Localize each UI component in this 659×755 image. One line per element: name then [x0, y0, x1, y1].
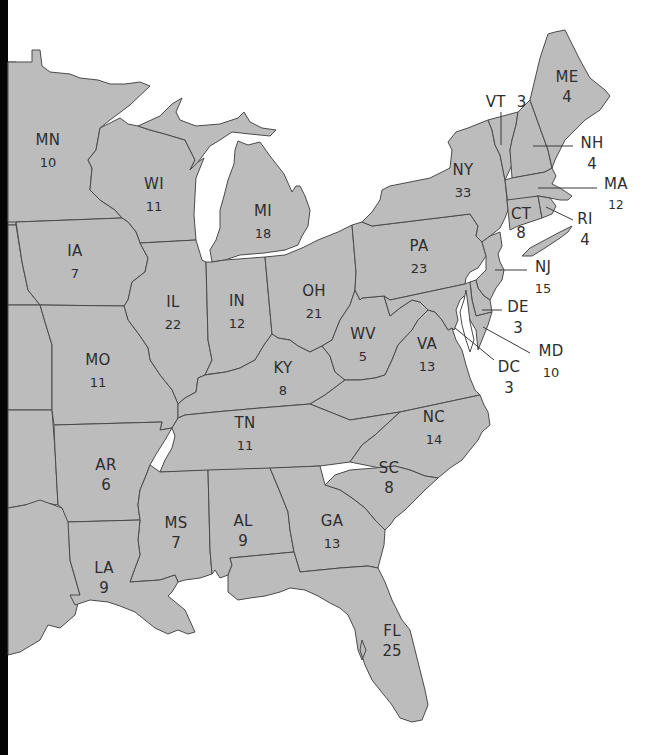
- label-wv: WV 5: [345, 327, 381, 363]
- label-wi: WI 11: [136, 177, 172, 213]
- label-ar: AR 6: [88, 458, 124, 493]
- label-me: ME 4: [549, 70, 585, 105]
- label-nh: NH 4: [574, 136, 610, 172]
- label-ct: CT 8: [505, 207, 537, 241]
- label-ky: KY 8: [265, 361, 301, 397]
- label-ga: GA 13: [314, 514, 350, 550]
- label-nc: NC 14: [416, 410, 452, 446]
- label-de: DE 3: [503, 300, 533, 336]
- label-la: LA 9: [86, 561, 122, 596]
- label-al: AL 9: [225, 514, 261, 549]
- label-sc: SC 8: [371, 461, 407, 496]
- label-dc: DC 3: [494, 360, 524, 396]
- label-ri: RI 4: [570, 212, 600, 248]
- label-vt: VT 3: [482, 94, 530, 110]
- label-ia: IA 7: [57, 244, 93, 280]
- label-oh: OH 21: [296, 284, 332, 320]
- state-ok-partial: [8, 410, 58, 508]
- label-md: MD 10: [533, 344, 569, 379]
- label-pa: PA 23: [401, 239, 437, 275]
- label-nj: NJ 15: [528, 260, 558, 295]
- label-ny: NY 33: [445, 163, 481, 199]
- label-mo: MO 11: [80, 353, 116, 389]
- label-fl: FL 25: [374, 624, 410, 659]
- label-in: IN 12: [219, 294, 255, 330]
- label-il: IL 22: [155, 295, 191, 331]
- label-mi: MI 18: [245, 204, 281, 240]
- label-va: VA 13: [409, 337, 445, 373]
- label-ms: MS 7: [158, 516, 194, 551]
- label-mn: MN 10: [30, 133, 66, 169]
- label-ma: MA 12: [598, 177, 634, 211]
- label-tn: TN 11: [227, 416, 263, 452]
